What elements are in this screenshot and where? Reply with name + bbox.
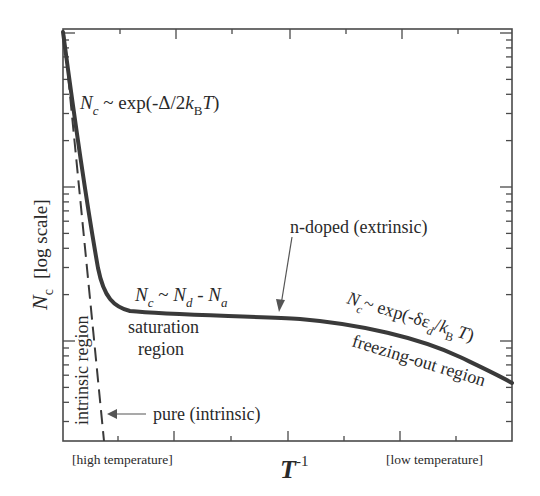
y-axis-label: Nc[log scale] <box>27 199 56 311</box>
pure-intrinsic-label: pure (intrinsic) <box>153 404 260 425</box>
right-axis-ticks <box>500 33 512 422</box>
x-low-temperature-note: [low temperature] <box>386 452 483 467</box>
saturation-equation: Nc ~ Nd - Na <box>134 284 228 310</box>
pure-arrow <box>107 409 146 419</box>
plot-frame <box>63 29 512 441</box>
saturation-label-line1: saturation <box>128 317 199 337</box>
x-axis-label: T-1 <box>280 453 308 484</box>
saturation-label-line2: region <box>138 339 184 359</box>
intrinsic-equation: Nc ~ exp(-Δ/2kBT) <box>79 92 219 118</box>
x-high-temperature-note: [high temperature] <box>72 452 173 467</box>
bottom-axis-ticks <box>118 431 456 441</box>
n-doped-label: n-doped (extrinsic) <box>290 217 427 238</box>
top-axis-ticks <box>120 29 458 39</box>
chart: Nc[log scale] T-1 [high temperature] [lo… <box>0 0 540 496</box>
n-doped-arrow <box>276 237 292 312</box>
intrinsic-region-label: intrinsic region <box>72 316 92 425</box>
